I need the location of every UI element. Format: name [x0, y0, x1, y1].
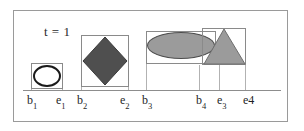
- tick-label-b3: b3: [142, 94, 152, 106]
- tick-label-b2: b2: [77, 94, 87, 106]
- tick-b4-sub: 4: [202, 101, 206, 111]
- tick-label-e2: e2: [120, 94, 130, 106]
- drop-line-b4: [199, 65, 200, 91]
- timeline-axis: [23, 90, 281, 91]
- tick-label-e4: e4: [243, 94, 254, 106]
- tick-label-b1: b1: [27, 94, 37, 106]
- tick-e4-text: e4: [243, 93, 254, 107]
- tick-e2-sub: 2: [125, 101, 129, 111]
- tick-b1-sub: 1: [33, 101, 37, 111]
- tick-e1-sub: 1: [61, 101, 65, 111]
- tick-b2-sub: 2: [83, 101, 87, 111]
- tick-b3-sub: 3: [148, 101, 152, 111]
- interval-shape-figure: t = 1 b1 e1 b2 e2: [0, 0, 304, 131]
- rounded-rectangle-shape-object-1: [33, 65, 61, 87]
- tick-label-b4: b4: [196, 94, 206, 106]
- tick-e3-sub: 3: [222, 101, 226, 111]
- tick-label-e3: e3: [217, 94, 227, 106]
- triangle-shape-object-4: [202, 28, 246, 65]
- drop-line-e4: [245, 65, 246, 91]
- drop-line-b3: [146, 64, 147, 91]
- drop-line-e3: [219, 64, 220, 91]
- diamond-shape-object-2: [81, 35, 129, 87]
- tick-label-e1: e1: [56, 94, 66, 106]
- time-step-label: t = 1: [44, 24, 70, 40]
